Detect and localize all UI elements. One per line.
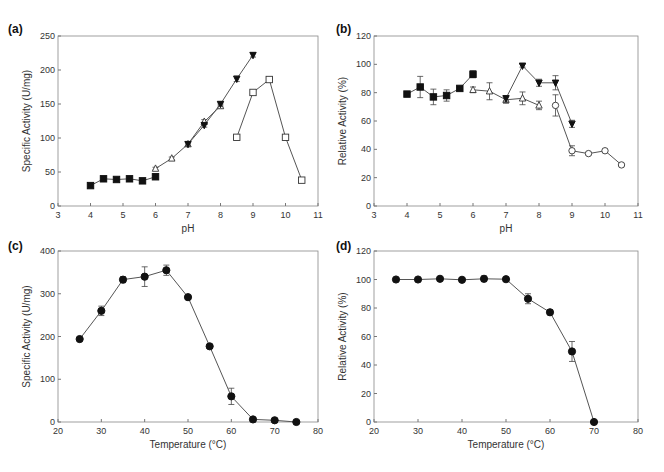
y-axis-title: Relative Activity (%) bbox=[337, 292, 348, 380]
x-tick-label: 9 bbox=[569, 210, 574, 220]
data-series bbox=[552, 95, 624, 168]
data-point-marker bbox=[404, 91, 410, 97]
chart-panel-b: (b)34567891011020406080100120pHRelative … bbox=[336, 22, 643, 234]
x-tick-label: 7 bbox=[503, 210, 508, 220]
y-tick-label: 20 bbox=[361, 389, 371, 399]
data-point-marker bbox=[282, 134, 288, 140]
y-tick-label: 40 bbox=[361, 144, 371, 154]
series-line bbox=[80, 270, 297, 422]
data-point-marker bbox=[443, 92, 449, 98]
data-point-marker bbox=[590, 418, 597, 425]
x-tick-label: 11 bbox=[313, 210, 322, 220]
data-point-marker bbox=[546, 309, 553, 316]
y-tick-label: 100 bbox=[40, 374, 55, 384]
x-tick-label: 7 bbox=[185, 210, 190, 220]
data-point-marker bbox=[184, 294, 191, 301]
chart-panel-d: (d)20304050607080020406080100120Temperat… bbox=[336, 239, 643, 450]
x-tick-label: 5 bbox=[120, 210, 125, 220]
x-tick-label: 60 bbox=[226, 426, 236, 436]
x-tick-label: 3 bbox=[371, 210, 376, 220]
x-tick-label: 80 bbox=[633, 426, 643, 436]
figure-canvas: (a)34567891011050100150200250pHSpecific … bbox=[0, 0, 664, 472]
y-tick-label: 80 bbox=[361, 303, 371, 313]
y-tick-label: 0 bbox=[50, 201, 55, 211]
x-tick-label: 30 bbox=[96, 426, 106, 436]
data-point-marker bbox=[163, 267, 170, 274]
data-point-marker bbox=[169, 155, 175, 161]
x-tick-label: 6 bbox=[153, 210, 158, 220]
panel-label: (c) bbox=[8, 239, 23, 253]
data-point-marker bbox=[618, 162, 624, 168]
x-tick-label: 4 bbox=[404, 210, 409, 220]
y-tick-label: 300 bbox=[40, 289, 55, 299]
x-tick-label: 50 bbox=[501, 426, 511, 436]
data-point-marker bbox=[206, 343, 213, 350]
data-point-marker bbox=[457, 85, 463, 91]
y-tick-label: 100 bbox=[40, 133, 55, 143]
x-tick-label: 70 bbox=[270, 426, 280, 436]
panel-label: (d) bbox=[336, 239, 351, 253]
plot-frame bbox=[58, 251, 318, 422]
data-point-marker bbox=[552, 102, 558, 108]
x-tick-label: 20 bbox=[53, 426, 63, 436]
data-point-marker bbox=[524, 295, 531, 302]
y-tick-label: 80 bbox=[361, 88, 371, 98]
plot-frame bbox=[374, 36, 638, 206]
data-point-marker bbox=[152, 165, 158, 171]
data-point-marker bbox=[139, 178, 145, 184]
y-tick-label: 40 bbox=[361, 360, 371, 370]
x-tick-label: 10 bbox=[600, 210, 610, 220]
y-axis-title: Relative Activity (%) bbox=[337, 77, 348, 165]
y-tick-label: 60 bbox=[361, 332, 371, 342]
x-tick-label: 10 bbox=[280, 210, 290, 220]
data-point-marker bbox=[293, 418, 300, 425]
data-point-marker bbox=[119, 276, 126, 283]
data-point-marker bbox=[392, 276, 399, 283]
series-line bbox=[237, 80, 302, 181]
series-line bbox=[506, 66, 572, 124]
data-point-marker bbox=[152, 174, 158, 180]
data-point-marker bbox=[87, 182, 93, 188]
data-point-marker bbox=[113, 176, 119, 182]
y-tick-label: 200 bbox=[40, 332, 55, 342]
y-tick-label: 0 bbox=[366, 417, 371, 427]
y-tick-label: 150 bbox=[40, 99, 55, 109]
data-point-marker bbox=[569, 121, 575, 127]
x-tick-label: 30 bbox=[413, 426, 423, 436]
data-point-marker bbox=[502, 276, 509, 283]
data-point-marker bbox=[519, 95, 525, 101]
data-point-marker bbox=[249, 416, 256, 423]
y-tick-label: 250 bbox=[40, 31, 55, 41]
x-tick-label: 4 bbox=[88, 210, 93, 220]
data-point-marker bbox=[569, 148, 575, 154]
y-tick-label: 50 bbox=[45, 167, 55, 177]
x-tick-label: 8 bbox=[536, 210, 541, 220]
x-axis-title: pH bbox=[500, 223, 513, 234]
data-point-marker bbox=[417, 84, 423, 90]
data-series bbox=[76, 265, 300, 425]
y-tick-label: 120 bbox=[356, 31, 371, 41]
data-series bbox=[152, 102, 223, 171]
x-tick-label: 60 bbox=[545, 426, 555, 436]
x-tick-label: 70 bbox=[589, 426, 599, 436]
plot-frame bbox=[58, 36, 318, 206]
panel-label: (b) bbox=[336, 22, 351, 36]
data-point-marker bbox=[602, 148, 608, 154]
data-series bbox=[234, 76, 305, 183]
data-point-marker bbox=[98, 307, 105, 314]
y-axis-title: Specific Activity (U/mg) bbox=[21, 70, 32, 172]
x-tick-label: 5 bbox=[437, 210, 442, 220]
x-axis-title: Temperature (°C) bbox=[468, 439, 545, 450]
y-tick-label: 0 bbox=[366, 201, 371, 211]
data-point-marker bbox=[436, 275, 443, 282]
data-point-marker bbox=[568, 348, 575, 355]
y-tick-label: 60 bbox=[361, 116, 371, 126]
y-tick-label: 200 bbox=[40, 65, 55, 75]
x-tick-label: 8 bbox=[218, 210, 223, 220]
x-tick-label: 20 bbox=[369, 426, 379, 436]
data-point-marker bbox=[100, 176, 106, 182]
data-point-marker bbox=[299, 177, 305, 183]
y-tick-label: 100 bbox=[356, 275, 371, 285]
y-tick-label: 120 bbox=[356, 246, 371, 256]
x-tick-label: 6 bbox=[470, 210, 475, 220]
